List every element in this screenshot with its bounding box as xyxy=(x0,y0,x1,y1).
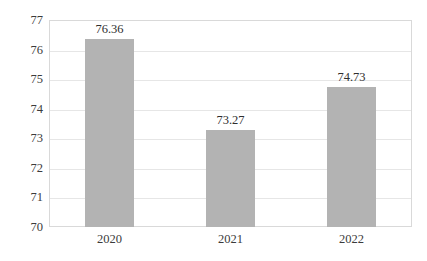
bars-layer: 76.3673.2774.73 xyxy=(49,20,412,227)
y-axis-tick-label: 77 xyxy=(3,14,43,27)
y-axis-tick-label: 75 xyxy=(3,73,43,86)
x-axis-tick-label: 2021 xyxy=(218,232,243,247)
y-axis-tick-label: 74 xyxy=(3,102,43,115)
bar-value-label: 76.36 xyxy=(95,23,123,36)
y-axis-tick-label: 76 xyxy=(3,43,43,56)
y-axis-tick-label: 70 xyxy=(3,221,43,234)
bar[interactable] xyxy=(206,130,255,227)
x-axis-tick-label: 2022 xyxy=(339,232,364,247)
y-axis-tick-label: 71 xyxy=(3,191,43,204)
x-axis-tick-label: 2020 xyxy=(97,232,122,247)
bar-value-label: 73.27 xyxy=(216,114,244,127)
x-axis: 202020212022 xyxy=(49,232,412,252)
bar[interactable] xyxy=(327,87,376,227)
y-axis-tick-label: 72 xyxy=(3,162,43,175)
y-axis-tick-label: 73 xyxy=(3,132,43,145)
bar[interactable] xyxy=(85,39,134,227)
y-axis: 7776757473727170 xyxy=(0,20,43,227)
bar-value-label: 74.73 xyxy=(337,71,365,84)
bar-chart: 7776757473727170 76.3673.2774.73 2020202… xyxy=(0,0,427,261)
